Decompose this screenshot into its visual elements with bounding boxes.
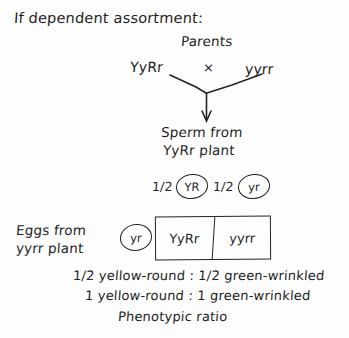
punnett-cell: YyRr [155, 217, 215, 259]
genetics-punnett-diagram: If dependent assortment: Parents YyRr × … [0, 0, 349, 338]
sperm-gamete-fraction-2: 1/2 [212, 179, 234, 194]
sperm-gamete-circle-1: YR [175, 174, 208, 200]
phenotypic-ratio-whole-numbers: 1 yellow-round : 1 green-wrinkled [84, 288, 311, 303]
down-arrow-head [202, 111, 211, 121]
parent-genotype-right: yyrr [244, 61, 274, 77]
cross-symbol: × [202, 60, 214, 75]
phenotypic-ratio-fractions: 1/2 yellow-round : 1/2 green-wrinkled [72, 268, 325, 283]
punnett-square: YyRr yyrr [155, 216, 271, 261]
eggs-label-line1: Eggs from [15, 222, 86, 238]
cross-line-left [170, 75, 206, 93]
sperm-label-line1: Sperm from [160, 124, 243, 140]
punnett-cell: yyrr [212, 217, 271, 259]
sperm-gamete-fraction-1: 1/2 [151, 179, 173, 194]
page-title: If dependent assortment: [13, 10, 203, 26]
eggs-label-line2: yyrr plant [15, 240, 84, 256]
parent-genotype-left: YyRr [129, 59, 163, 75]
parents-label: Parents [180, 33, 233, 49]
sperm-gamete-circle-2: yr [237, 174, 270, 200]
egg-gamete-circle-1: yr [119, 224, 152, 252]
sperm-label-line2: YyRr plant [162, 142, 235, 158]
phenotypic-ratio-caption: Phenotypic ratio [117, 309, 227, 324]
